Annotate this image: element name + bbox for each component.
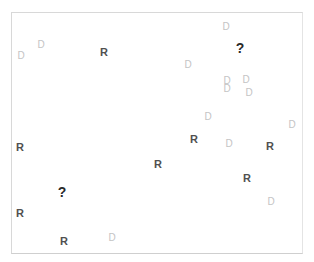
debris-marker[interactable]: D <box>17 51 24 61</box>
debris-marker[interactable]: D <box>225 139 232 149</box>
robot-marker[interactable]: R <box>100 47 108 58</box>
debris-marker[interactable]: D <box>222 22 229 32</box>
unknown-marker[interactable]: ? <box>58 185 67 199</box>
robot-marker[interactable]: R <box>243 173 251 184</box>
robot-marker[interactable]: R <box>16 208 24 219</box>
debris-marker[interactable]: D <box>245 88 252 98</box>
debris-marker[interactable]: D <box>204 112 211 122</box>
robot-marker[interactable]: R <box>266 141 274 152</box>
debris-marker[interactable]: D <box>37 40 44 50</box>
debris-marker[interactable]: D <box>267 197 274 207</box>
robot-marker[interactable]: R <box>154 159 162 170</box>
robot-marker[interactable]: R <box>60 236 68 247</box>
debris-marker[interactable]: D <box>242 75 249 85</box>
debris-marker[interactable]: D <box>184 60 191 70</box>
debris-marker[interactable]: D <box>288 120 295 130</box>
robot-marker[interactable]: R <box>16 142 24 153</box>
debris-marker[interactable]: D <box>223 84 230 94</box>
debris-marker[interactable]: D <box>108 233 115 243</box>
game-board[interactable] <box>11 12 303 254</box>
robot-marker[interactable]: R <box>190 134 198 145</box>
unknown-marker[interactable]: ? <box>236 41 245 55</box>
